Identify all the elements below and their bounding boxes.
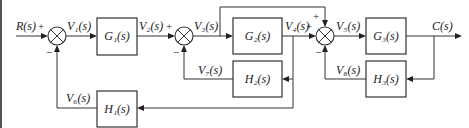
block-G2-label: G₂(s) <box>245 29 271 43</box>
block-G3: G₃(s) <box>366 18 406 54</box>
sign-s3-minus: − <box>315 46 321 58</box>
block-G2: G₂(s) <box>233 18 282 54</box>
feedback-path-H3 <box>408 36 434 79</box>
summing-junction-2: − <box>173 27 193 58</box>
signal-V6: V₆(s) <box>66 91 90 105</box>
signal-V3: V₃(s) <box>194 19 218 33</box>
signal-V1: V₁(s) <box>67 19 91 33</box>
block-G3-label: G₃(s) <box>373 29 399 43</box>
sign-s3-top-plus: + <box>313 10 319 22</box>
block-H1: H₁(s) <box>97 91 137 127</box>
block-G1: G₁(s) <box>97 18 137 55</box>
block-G1-label: G₁(s) <box>104 29 130 43</box>
block-H3: H₃(s) <box>366 61 406 97</box>
signal-V2: V₂(s) <box>139 19 163 33</box>
signal-C: C(s) <box>432 19 453 33</box>
sign-s3-plus: + <box>306 20 312 32</box>
signal-V7: V₇(s) <box>198 63 222 77</box>
sign-s1-minus: − <box>46 46 52 58</box>
input-path: R(s) + <box>15 19 48 39</box>
block-H2: H₂(s) <box>233 61 282 97</box>
signal-R: R(s) <box>15 19 36 33</box>
signal-V8: V₈(s) <box>336 63 360 77</box>
block-H2-label: H₂(s) <box>244 72 271 86</box>
signal-V5: V₅(s) <box>336 19 360 33</box>
summing-junction-1: − <box>46 27 66 58</box>
block-H1-label: H₁(s) <box>103 102 130 116</box>
sign-s1-plus: + <box>38 20 44 32</box>
block-H3-label: H₃(s) <box>372 72 399 86</box>
sign-s2-plus: + <box>166 20 172 32</box>
block-diagram: R(s) + − V₁(s) G₁(s) V₂(s) + − V₃(s) + G… <box>0 0 469 128</box>
sign-s2-minus: − <box>173 46 179 58</box>
